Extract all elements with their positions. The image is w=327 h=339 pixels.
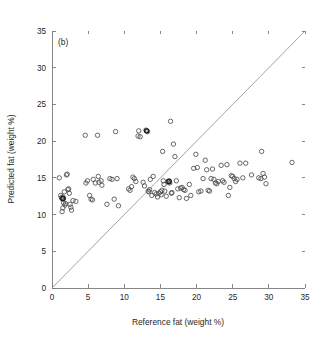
- y-tick-label: 20: [37, 137, 47, 146]
- y-tick-label: 10: [37, 211, 47, 220]
- x-tick-label: 20: [192, 293, 202, 302]
- figure-container: 05101520253035 05101520253035 (b) Refere…: [0, 0, 327, 339]
- scatter-plot: 05101520253035 05101520253035 (b) Refere…: [0, 0, 327, 339]
- x-tick-label: 25: [228, 293, 238, 302]
- y-tick-label: 25: [37, 100, 47, 109]
- y-tick-label: 35: [37, 27, 47, 36]
- x-tick-label: 15: [156, 293, 166, 302]
- y-tick-label: 0: [41, 284, 46, 293]
- x-axis-title: Reference fat (weight %): [132, 317, 224, 327]
- y-tick-label: 30: [37, 64, 47, 73]
- y-tick-label: 15: [37, 174, 47, 183]
- y-axis-title: Predicted fat (weight %): [6, 114, 16, 203]
- y-tick-label: 5: [41, 247, 46, 256]
- x-tick-label: 0: [50, 293, 55, 302]
- x-tick-label: 10: [120, 293, 130, 302]
- x-tick-label: 5: [86, 293, 91, 302]
- x-tick-label: 35: [300, 293, 310, 302]
- panel-label: (b): [58, 37, 68, 47]
- x-tick-label: 30: [264, 293, 274, 302]
